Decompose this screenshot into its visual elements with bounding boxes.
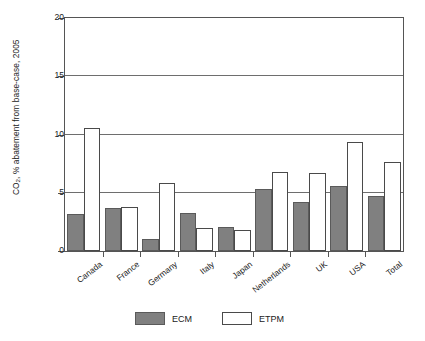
x-tick-6 (290, 252, 291, 257)
bar-etpm-germany (159, 183, 176, 251)
y-tick-label-20: 20 (22, 12, 64, 22)
bar-etpm-japan (234, 230, 251, 251)
y-axis-title-subscript: 2 (14, 179, 21, 183)
x-axis-label-italy: Italy (198, 259, 216, 276)
bar-etpm-netherlands (272, 172, 289, 251)
bar-ecm-usa (330, 186, 347, 251)
legend-item-etpm[interactable]: ETPM (222, 312, 284, 325)
x-axis-label-germany: Germany (146, 259, 179, 288)
bar-etpm-france (121, 207, 138, 251)
x-axis-label-japan: Japan (230, 259, 254, 281)
y-tick-label-10: 10 (22, 129, 64, 139)
x-tick-8 (365, 252, 366, 257)
legend-label-etpm: ETPM (259, 314, 284, 324)
x-tick-7 (328, 252, 329, 257)
x-axis-label-netherlands: Netherlands (250, 259, 292, 295)
y-tick-label-0: 0 (22, 245, 64, 255)
y-tick-label-15: 15 (22, 70, 64, 80)
y-tick-label-5: 5 (22, 187, 64, 197)
bar-ecm-germany (142, 239, 159, 251)
bar-ecm-netherlands (255, 189, 272, 251)
y-axis-title-suffix: , % abatement from base-case, 2005 (11, 39, 21, 178)
x-tick-3 (178, 252, 179, 257)
bar-ecm-total (368, 196, 385, 251)
x-axis-label-canada: Canada (75, 259, 104, 285)
legend-swatch-ecm (135, 312, 165, 325)
chart-figure: CO2, % abatement from base-case, 2005 05… (0, 0, 425, 341)
x-tick-5 (253, 252, 254, 257)
bar-etpm-italy (196, 228, 213, 251)
bar-etpm-canada (84, 128, 101, 251)
x-axis-label-france: France (115, 259, 142, 283)
x-tick-4 (215, 252, 216, 257)
bar-ecm-france (105, 208, 122, 251)
bar-etpm-uk (309, 173, 326, 251)
bar-etpm-total (384, 162, 401, 251)
legend-swatch-etpm (222, 312, 252, 325)
y-axis-title-prefix: CO (11, 182, 21, 195)
bar-ecm-uk (293, 202, 310, 251)
x-tick-1 (103, 252, 104, 257)
x-axis-label-uk: UK (314, 259, 329, 274)
bars-layer (65, 18, 403, 251)
bar-ecm-japan (218, 227, 235, 251)
bar-ecm-italy (180, 213, 197, 251)
x-axis-label-usa: USA (347, 259, 367, 277)
legend-item-ecm[interactable]: ECM (135, 312, 192, 325)
legend-label-ecm: ECM (172, 314, 192, 324)
bar-etpm-usa (347, 142, 364, 252)
bar-ecm-canada (67, 214, 84, 251)
x-tick-2 (140, 252, 141, 257)
chart-legend: ECM ETPM (135, 312, 284, 325)
x-axis-label-total: Total (384, 259, 404, 278)
y-axis-title: CO2, % abatement from base-case, 2005 (11, 0, 22, 237)
